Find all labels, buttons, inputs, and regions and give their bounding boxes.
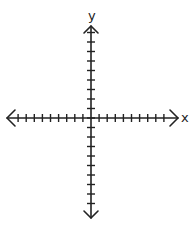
y-axis-label: y [88,8,96,23]
coordinate-plane: y x [0,0,192,228]
x-axis-label: x [181,110,189,125]
